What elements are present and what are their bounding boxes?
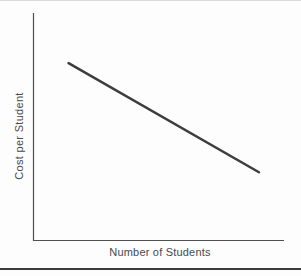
x-axis-label: Number of Students	[109, 246, 210, 258]
y-axis-label: Cost per Student	[13, 92, 25, 179]
cost-curve-line	[69, 63, 259, 172]
chart-axes	[34, 13, 285, 241]
textbook-figure-page: Cost per Student Number of Students	[0, 0, 301, 276]
page-bottom-rule	[0, 268, 301, 270]
line-chart	[0, 0, 301, 276]
